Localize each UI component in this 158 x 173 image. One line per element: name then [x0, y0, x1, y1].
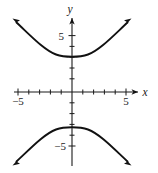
x-axis-label: x — [141, 86, 148, 98]
y-tick-label-pos5: 5 — [59, 30, 65, 42]
graph-canvas: −5 5 x 5 −5 y — [0, 0, 158, 173]
x-tick-label-pos5: 5 — [123, 95, 129, 107]
x-tick-label-neg5: −5 — [12, 95, 24, 107]
y-tick-label-neg5: −5 — [54, 140, 66, 152]
y-axis-group: 5 −5 y — [54, 3, 75, 166]
y-axis-label: y — [66, 3, 73, 16]
hyperbola-figure: −5 5 x 5 −5 y — [0, 0, 158, 173]
x-axis-group: −5 5 x — [12, 86, 148, 107]
